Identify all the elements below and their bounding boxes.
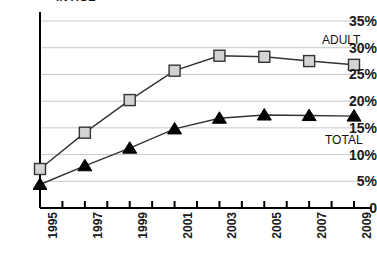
- y-axis-label: 35%: [341, 13, 377, 29]
- y-axis-label: 5%: [341, 173, 377, 189]
- x-axis-label: 2005: [270, 212, 284, 239]
- x-axis-label: 2003: [225, 212, 239, 239]
- x-axis-label: 2001: [181, 212, 195, 239]
- x-axis-label: 1997: [91, 212, 105, 239]
- y-axis-label: 20%: [341, 93, 377, 109]
- x-tick-marks: [40, 201, 354, 208]
- plot-area: 35%30%25%20%15%10%5%0 199519971999200120…: [0, 0, 377, 255]
- x-axis-label: 2009: [360, 212, 374, 239]
- x-axis-label: 1999: [136, 212, 150, 239]
- series-label-adult: ADULT: [322, 33, 360, 47]
- series-label-total: TOTAL: [325, 133, 363, 147]
- x-axis-label: 2007: [315, 212, 329, 239]
- y-axis-label: 25%: [341, 66, 377, 82]
- x-axis-label: 1995: [46, 212, 60, 239]
- series-total: [33, 109, 361, 190]
- chart-container: IN AGE 35%30%25%20%15%10%5%0 19951997199…: [0, 0, 377, 255]
- y-axis-label: 10%: [341, 147, 377, 163]
